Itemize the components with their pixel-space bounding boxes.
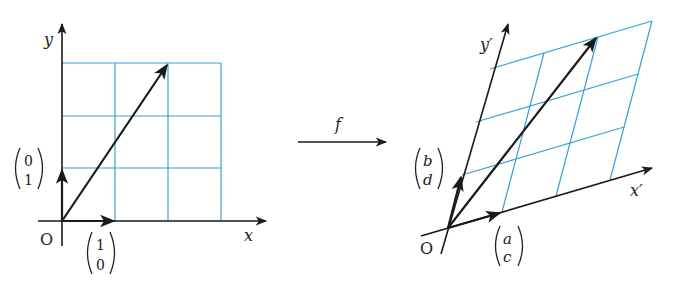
mapping-label: f <box>334 115 344 134</box>
left-y-label: y <box>43 30 54 49</box>
svg-text:d: d <box>423 171 433 189</box>
left-x-label: x <box>244 226 253 245</box>
linear-transformation-diagram: y x O 0 1 1 0 f <box>0 0 675 284</box>
svg-text:0: 0 <box>24 153 33 169</box>
right-y-label: y′ <box>479 35 493 54</box>
right-basis-vector-a-c <box>448 213 500 228</box>
right-b-d-column-vector: b d <box>416 148 443 189</box>
left-diagram: y x O 0 1 1 0 <box>16 24 267 274</box>
right-a-c-column-vector: a c <box>496 226 523 266</box>
svg-text:1: 1 <box>24 172 33 188</box>
svg-text:c: c <box>503 248 512 266</box>
svg-text:b: b <box>423 152 433 170</box>
right-diagram: y′ x′ O b d a c <box>416 21 653 266</box>
left-e2-column-vector: 0 1 <box>16 148 43 189</box>
left-origin-label: O <box>40 230 53 249</box>
right-x-label: x′ <box>630 181 643 200</box>
right-diagonal-vector <box>448 38 596 228</box>
svg-text:0: 0 <box>96 257 105 273</box>
svg-text:a: a <box>503 230 512 248</box>
mapping-arrow: f <box>298 115 386 142</box>
svg-text:1: 1 <box>96 237 105 253</box>
left-grid <box>62 63 221 221</box>
left-e1-column-vector: 1 0 <box>88 232 115 274</box>
right-origin-label: O <box>420 239 433 258</box>
